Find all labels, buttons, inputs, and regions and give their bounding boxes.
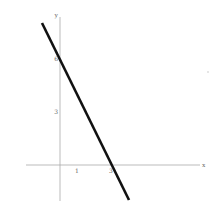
y-tick-6: 6: [54, 55, 58, 62]
y-axis-label: y: [54, 11, 59, 19]
x-axis-label: x: [202, 161, 206, 168]
x-tick-3: 3: [109, 167, 113, 174]
speck-mark: [207, 71, 208, 72]
y-tick-3: 3: [54, 108, 58, 115]
graph: y x 6 3 1 3: [0, 0, 224, 217]
x-tick-1: 1: [75, 167, 79, 174]
